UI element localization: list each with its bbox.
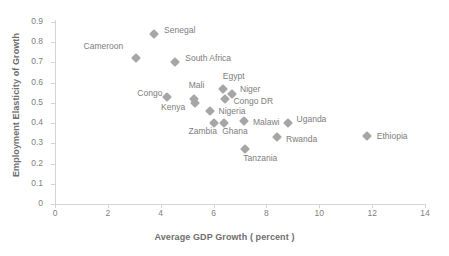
y-tick-label: 0.1: [31, 179, 43, 188]
x-axis-title: Average GDP Growth ( percent ): [0, 232, 449, 242]
y-tick-label-wrap: 0.2: [0, 159, 49, 169]
y-tick-label-wrap: 0.5: [0, 98, 49, 108]
x-tick-label: 8: [251, 209, 281, 218]
data-point-label: Niger: [240, 85, 260, 94]
x-tick-label: 0: [40, 209, 70, 218]
y-tick-label: 0.9: [31, 17, 43, 26]
y-tick-label-wrap: 0.8: [0, 37, 49, 47]
data-point-label: Mali: [189, 81, 205, 90]
y-tick-label-wrap: 0.7: [0, 57, 49, 67]
y-tick-label: 0.3: [31, 138, 43, 147]
y-tick-label-wrap: 0: [0, 199, 49, 209]
y-tick-label-wrap: 0.9: [0, 17, 49, 27]
x-tick-label: 12: [357, 209, 387, 218]
y-tick-label: 0.7: [31, 57, 43, 66]
data-point-label: Nigeria: [219, 107, 246, 116]
y-tick-label: 0: [38, 199, 43, 208]
data-point-label: Rwanda: [286, 135, 317, 144]
x-tick-label: 2: [93, 209, 123, 218]
data-point-label: Senegal: [164, 26, 195, 35]
y-tick-label: 0.8: [31, 37, 43, 46]
y-axis-title: Employment Elasticity of Growth: [11, 5, 21, 205]
data-point-label: South Africa: [185, 54, 231, 63]
data-point-label: Cameroon: [84, 42, 124, 51]
x-tick-label: 10: [304, 209, 334, 218]
y-tick-label: 0.6: [31, 78, 43, 87]
data-point-label: Congo DR: [233, 97, 273, 106]
data-point-label: Malawi: [253, 118, 279, 127]
data-point-label: Ethiopia: [377, 132, 408, 141]
y-tick-label: 0.4: [31, 118, 43, 127]
data-point-label: Ghana: [222, 127, 248, 136]
y-tick-label: 0.5: [31, 98, 43, 107]
y-tick-label-wrap: 0.6: [0, 78, 49, 88]
x-tick-label: 6: [199, 209, 229, 218]
x-tick-label: 4: [146, 209, 176, 218]
y-tick-label-wrap: 0.3: [0, 138, 49, 148]
data-point-label: Kenya: [161, 103, 185, 112]
data-point-label: Zambia: [189, 127, 217, 136]
data-point-label: Egypt: [223, 72, 245, 81]
scatter-chart: 00.10.20.30.40.50.60.70.80.9 02468101214…: [0, 0, 449, 256]
data-point-label: Tanzania: [243, 154, 277, 163]
data-point-label: Congo: [137, 89, 162, 98]
x-axis-line: [55, 204, 426, 205]
y-tick-label-wrap: 0.4: [0, 118, 49, 128]
x-tick-label: 14: [410, 209, 440, 218]
y-tick-label-wrap: 0.1: [0, 179, 49, 189]
data-point-label: Uganda: [297, 115, 327, 124]
y-tick-label: 0.2: [31, 159, 43, 168]
